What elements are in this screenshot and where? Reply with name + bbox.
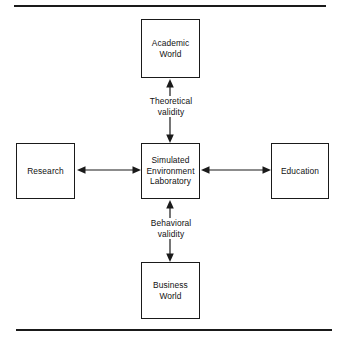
- node-academic-world: Academic World: [141, 19, 200, 78]
- bottom-horizontal-rule: [16, 329, 332, 331]
- node-simulated-environment-laboratory-label: Simulated Environment Laboratory: [144, 155, 196, 187]
- node-research: Research: [16, 143, 75, 199]
- node-education: Education: [271, 143, 329, 199]
- node-academic-world-label: Academic World: [150, 38, 192, 59]
- arrow-center-education-bidirectional: [201, 164, 271, 176]
- edge-label-behavioral-validity: Behavioral validity: [138, 218, 204, 239]
- node-research-label: Research: [25, 166, 66, 177]
- node-business-world-label: Business World: [151, 280, 190, 301]
- top-horizontal-rule: [14, 5, 326, 7]
- node-business-world: Business World: [141, 262, 200, 319]
- edge-label-theoretical-validity: Theoretical validity: [138, 96, 204, 117]
- node-simulated-environment-laboratory: Simulated Environment Laboratory: [141, 143, 200, 199]
- node-education-label: Education: [279, 166, 321, 177]
- arrow-research-center-bidirectional: [77, 164, 141, 176]
- diagram-canvas: Academic World Research Simulated Enviro…: [0, 0, 343, 342]
